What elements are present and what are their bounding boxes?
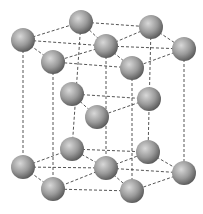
atom-sphere bbox=[11, 155, 35, 179]
atom-sphere bbox=[172, 37, 196, 61]
atom-sphere bbox=[120, 56, 144, 80]
atom-sphere bbox=[137, 87, 161, 111]
atom-sphere bbox=[172, 161, 196, 185]
atom-sphere bbox=[120, 179, 144, 203]
atom-sphere bbox=[136, 140, 160, 164]
atom-sphere bbox=[60, 82, 84, 106]
hcp-crystal-diagram bbox=[0, 0, 203, 214]
atom-sphere bbox=[41, 50, 65, 74]
bond-line bbox=[23, 40, 106, 46]
bond-line bbox=[23, 167, 106, 168]
atom-sphere bbox=[41, 177, 65, 201]
atom-sphere bbox=[85, 105, 109, 129]
atom-sphere bbox=[94, 34, 118, 58]
atom-sphere bbox=[60, 137, 84, 161]
atom-sphere bbox=[11, 28, 35, 52]
atom-sphere bbox=[139, 15, 163, 39]
atom-sphere bbox=[94, 156, 118, 180]
atom-sphere bbox=[69, 10, 93, 34]
